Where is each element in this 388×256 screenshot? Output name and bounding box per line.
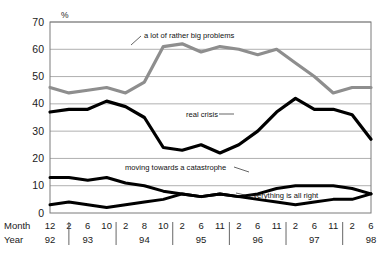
row-header-month: Month <box>4 220 30 231</box>
annotation-leader-line <box>236 193 245 195</box>
x-tick-year: 92 <box>45 234 56 245</box>
data-series <box>50 44 371 208</box>
series-annotation-label: moving towards a catastrophe <box>125 163 226 172</box>
y-tick-label: 60 <box>32 43 44 55</box>
x-tick-month: 12 <box>45 220 56 231</box>
x-tick-month: 10 <box>158 220 169 231</box>
x-tick-month: 6 <box>85 220 90 231</box>
series-annotations: a lot of rather big problemsreal crisism… <box>125 31 319 200</box>
y-tick-label: 70 <box>32 16 44 28</box>
x-tick-month: 6 <box>368 220 373 231</box>
y-tick-label: 40 <box>32 97 44 109</box>
series-line <box>50 44 371 93</box>
x-tick-month: 11 <box>328 220 338 231</box>
x-tick-month: 2 <box>293 220 298 231</box>
y-tick-label: 10 <box>32 179 44 191</box>
x-tick-year: 97 <box>309 234 320 245</box>
y-tick-label: 20 <box>32 152 44 164</box>
y-axis-unit-label: % <box>61 10 69 20</box>
x-tick-month: 6 <box>198 220 203 231</box>
chart-container: 010203040506070 122610281026112611261126… <box>0 0 388 256</box>
x-tick-month: 10 <box>101 220 112 231</box>
x-axis-ticks: 12261028102611261126112692939495969798 <box>45 220 377 245</box>
y-axis-ticks: 010203040506070 <box>32 16 44 219</box>
x-tick-month: 2 <box>123 220 128 231</box>
annotation-leader-line <box>234 167 249 172</box>
row-header-year: Year <box>4 234 23 245</box>
y-tick-label: 30 <box>32 125 44 137</box>
series-line <box>50 194 371 208</box>
series-line <box>50 98 371 153</box>
x-tick-month: 8 <box>142 220 147 231</box>
x-tick-year: 93 <box>82 234 93 245</box>
x-tick-month: 6 <box>255 220 260 231</box>
x-tick-month: 2 <box>180 220 185 231</box>
y-tick-label: 50 <box>32 70 44 82</box>
x-tick-month: 11 <box>215 220 225 231</box>
series-annotation-label: everything is all right <box>249 191 319 200</box>
x-tick-year: 98 <box>366 234 377 245</box>
x-tick-year: 95 <box>196 234 207 245</box>
series-annotation-label: a lot of rather big problems <box>144 31 235 40</box>
line-chart: 010203040506070 122610281026112611261126… <box>0 0 388 256</box>
x-tick-year: 94 <box>139 234 150 245</box>
x-tick-year: 96 <box>252 234 263 245</box>
series-annotation-label: real crisis <box>186 110 218 119</box>
x-tick-month: 2 <box>349 220 354 231</box>
x-tick-month: 11 <box>272 220 282 231</box>
x-tick-month: 6 <box>312 220 317 231</box>
annotation-leader-line <box>131 36 141 45</box>
y-tick-label: 0 <box>38 207 44 219</box>
x-tick-month: 2 <box>236 220 241 231</box>
